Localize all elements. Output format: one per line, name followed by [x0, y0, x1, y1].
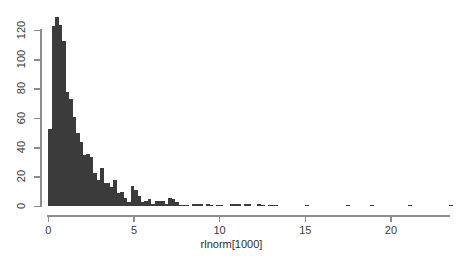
histogram-bar: [370, 205, 374, 206]
histogram-bar: [449, 205, 453, 206]
x-axis-tick: [48, 216, 50, 222]
x-axis-tick-label: 0: [28, 224, 68, 236]
y-axis-tick-label: 100: [15, 44, 27, 74]
histogram-bar: [408, 205, 412, 206]
x-axis-tick: [133, 216, 135, 222]
histogram-bar: [199, 204, 203, 207]
y-axis-tick: [34, 118, 40, 120]
x-axis-tick: [305, 216, 307, 222]
histogram-plot: 020406080100120 05101520 rlnorm[1000]: [0, 0, 463, 262]
x-axis-tick: [390, 216, 392, 222]
y-axis-tick: [34, 59, 40, 61]
x-axis-tick-label: 20: [371, 224, 411, 236]
y-axis-tick: [34, 147, 40, 149]
y-axis-tick-label: 120: [15, 15, 27, 45]
y-axis-tick: [34, 30, 40, 32]
histogram-bar: [305, 205, 309, 206]
x-axis-tick: [219, 216, 221, 222]
y-axis-tick: [34, 176, 40, 178]
x-axis-tick-label: 10: [200, 224, 240, 236]
histogram-bar: [185, 205, 189, 206]
x-axis-title: rlnorm[1000]: [0, 238, 463, 250]
y-axis-tick-label: 40: [15, 132, 27, 162]
histogram-bar: [274, 205, 278, 206]
x-axis-tick-label: 5: [114, 224, 154, 236]
y-axis-tick: [34, 88, 40, 90]
histogram-bar: [237, 204, 241, 207]
x-axis-tick-label: 15: [285, 224, 325, 236]
histogram-bar: [247, 204, 251, 207]
histogram-bar: [220, 205, 224, 206]
histogram-bar: [346, 205, 350, 206]
y-axis-tick: [34, 206, 40, 208]
y-axis-tick-label: 20: [15, 161, 27, 191]
y-axis-line: [40, 29, 42, 207]
histogram-bar: [261, 205, 265, 206]
y-axis-tick-label: 60: [15, 103, 27, 133]
y-axis-tick-label: 0: [15, 191, 27, 221]
y-axis-tick-label: 80: [15, 73, 27, 103]
histogram-bar: [209, 205, 213, 206]
